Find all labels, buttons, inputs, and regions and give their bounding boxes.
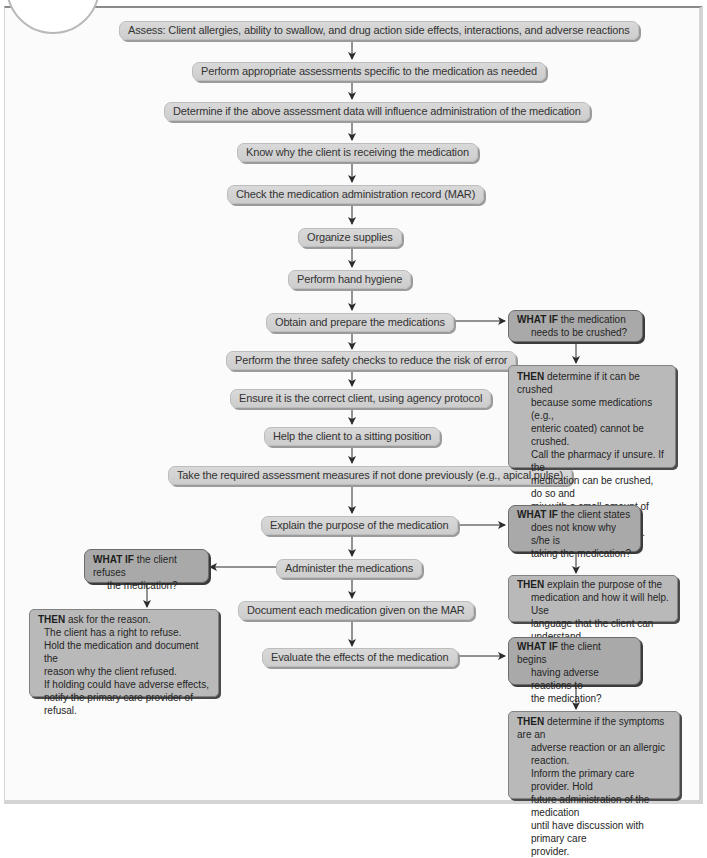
step-explain: Explain the purpose of the medication xyxy=(261,516,458,535)
step-hand-hygiene: Perform hand hygiene xyxy=(288,270,411,289)
what-if-keyword: WHAT IF xyxy=(517,509,558,520)
then-text: Call the pharmacy if unsure. If the xyxy=(517,448,667,474)
what-if-text: does not know why s/he is xyxy=(517,521,632,547)
then-adverse: THEN determine if the symptoms are an ad… xyxy=(508,711,680,799)
then-crushed: THEN determine if it can be crushed beca… xyxy=(508,365,676,468)
then-text: future administration of the medication xyxy=(517,793,671,819)
step-document: Document each medication given on the MA… xyxy=(238,601,474,620)
what-if-text: having adverse reactions to xyxy=(517,666,632,692)
step-safety-checks: Perform the three safety checks to reduc… xyxy=(226,351,516,370)
what-if-text: taking the medication? xyxy=(517,547,632,560)
then-text: medication and how it will help. Use xyxy=(517,591,669,617)
then-text: enteric coated) cannot be crushed. xyxy=(517,422,667,448)
what-if-text: the medication? xyxy=(93,579,200,592)
then-text: notify the primary care provider of refu… xyxy=(38,691,210,717)
step-sitting: Help the client to a sitting position xyxy=(264,427,440,446)
what-if-why: WHAT IF the client states does not know … xyxy=(508,505,641,552)
what-if-keyword: WHAT IF xyxy=(517,641,558,652)
step-evaluate: Evaluate the effects of the medication xyxy=(262,648,458,667)
what-if-keyword: WHAT IF xyxy=(517,314,558,325)
step-administer: Administer the medications xyxy=(276,559,422,578)
then-text: because some medications (e.g., xyxy=(517,396,667,422)
then-keyword: THEN xyxy=(38,614,65,625)
step-organize: Organize supplies xyxy=(298,228,402,247)
what-if-keyword: WHAT IF xyxy=(93,554,134,565)
then-text: Inform the primary care provider. Hold xyxy=(517,767,671,793)
then-keyword: THEN xyxy=(517,371,544,382)
step-know-why: Know why the client is receiving the med… xyxy=(237,143,478,162)
step-determine: Determine if the above assessment data w… xyxy=(164,102,590,121)
step-assess: Assess: Client allergies, ability to swa… xyxy=(119,21,639,40)
then-text: Hold the medication and document the xyxy=(38,639,210,665)
step-ensure-client: Ensure it is the correct client, using a… xyxy=(230,389,491,408)
then-text: provider. xyxy=(517,845,671,858)
then-text: If holding could have adverse effects, xyxy=(38,678,210,691)
what-if-adverse: WHAT IF the client begins having adverse… xyxy=(508,637,641,685)
step-required-assessment: Take the required assessment measures if… xyxy=(168,466,572,485)
then-text: reason why the client refused. xyxy=(38,665,210,678)
what-if-crushed: WHAT IF the medication needs to be crush… xyxy=(508,310,643,342)
step-perform-assessments: Perform appropriate assessments specific… xyxy=(192,62,546,81)
then-keyword: THEN xyxy=(517,716,544,727)
what-if-text: the medication xyxy=(561,314,626,325)
then-why: THEN explain the purpose of the medicati… xyxy=(508,575,678,622)
then-keyword: THEN xyxy=(517,579,544,590)
step-check-mar: Check the medication administration reco… xyxy=(227,185,484,204)
then-text: The client has a right to refuse. xyxy=(38,626,210,639)
then-text: medication can be crushed, do so and xyxy=(517,474,667,500)
what-if-text: the client states xyxy=(561,509,630,520)
then-text: explain the purpose of the xyxy=(547,579,662,590)
then-text: adverse reaction or an allergic reaction… xyxy=(517,741,671,767)
what-if-text: the medication? xyxy=(517,692,632,705)
what-if-text: needs to be crushed? xyxy=(517,326,634,339)
then-text: ask for the reason. xyxy=(68,614,151,625)
what-if-refuses: WHAT IF the client refuses the medicatio… xyxy=(84,549,209,583)
then-text: until have discussion with primary care xyxy=(517,819,671,845)
step-obtain: Obtain and prepare the medications xyxy=(266,313,454,332)
then-refuses: THEN ask for the reason. The client has … xyxy=(29,609,219,697)
